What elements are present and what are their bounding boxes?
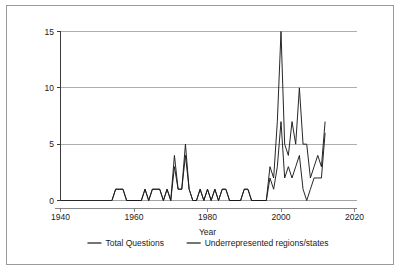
x-tick-label: 2000 bbox=[272, 212, 291, 222]
x-tick-label: 1960 bbox=[125, 212, 144, 222]
chart-legend: Total QuestionsUnderrepresented regions/… bbox=[87, 238, 328, 248]
line-chart: 05101519401960198020002020 Year Total Qu… bbox=[0, 0, 401, 272]
x-tick-label: 2020 bbox=[345, 212, 364, 222]
legend-item: Underrepresented regions/states bbox=[187, 238, 329, 248]
series-lines bbox=[61, 32, 325, 201]
x-tick-label: 1980 bbox=[198, 212, 217, 222]
tick-labels: 05101519401960198020002020 bbox=[45, 27, 365, 223]
gridlines bbox=[61, 32, 357, 201]
legend-item: Total Questions bbox=[87, 238, 164, 248]
x-axis-title: Year bbox=[199, 227, 216, 237]
y-tick-label: 5 bbox=[49, 139, 54, 149]
y-tick-label: 15 bbox=[45, 27, 55, 37]
legend-label: Underrepresented regions/states bbox=[205, 238, 329, 248]
series-line-1 bbox=[112, 122, 325, 201]
x-tick-label: 1940 bbox=[51, 212, 70, 222]
axis-title: Year bbox=[199, 227, 216, 237]
axes bbox=[55, 31, 357, 212]
chart-figure: 05101519401960198020002020 Year Total Qu… bbox=[0, 0, 401, 272]
y-tick-label: 0 bbox=[49, 196, 54, 206]
legend-label: Total Questions bbox=[105, 238, 164, 248]
y-tick-label: 10 bbox=[45, 83, 55, 93]
